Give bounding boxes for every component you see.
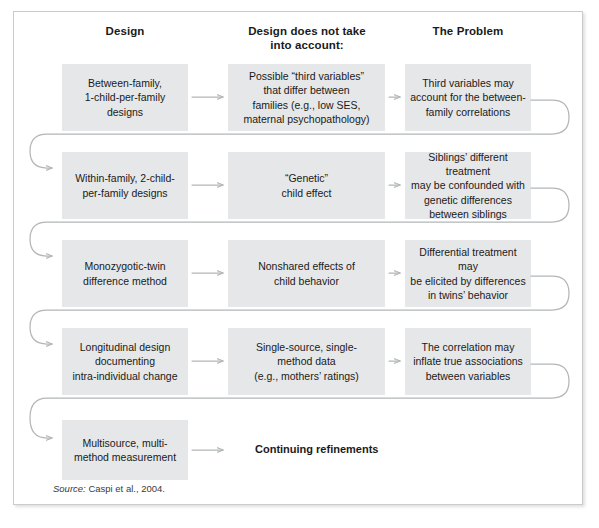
node-design-row-5-label: Multisource, multi- method measurement xyxy=(74,436,176,464)
column-header-design: Design xyxy=(62,24,188,38)
figure-screenshot: Design Design does not take into account… xyxy=(0,0,599,528)
node-design-row-3[interactable]: Monozygotic-twin difference method xyxy=(62,240,188,307)
node-design-row-4[interactable]: Longitudinal design documenting intra-in… xyxy=(62,328,188,395)
node-not-accounted-row-1[interactable]: Possible “third variables” that differ b… xyxy=(228,64,385,131)
node-not-accounted-row-1-label: Possible “third variables” that differ b… xyxy=(243,69,369,126)
node-problem-row-1-label: Third variables may account for the betw… xyxy=(410,76,526,119)
node-not-accounted-row-3[interactable]: Nonshared effects of child behavior xyxy=(228,240,385,307)
node-design-row-2[interactable]: Within-family, 2-child- per-family desig… xyxy=(62,152,188,219)
node-design-row-2-label: Within-family, 2-child- per-family desig… xyxy=(75,171,175,199)
source-note: Source: Caspi et al., 2004. xyxy=(53,483,165,494)
column-header-not-accounted-label: Design does not take into account: xyxy=(248,25,366,51)
column-header-problem-label: The Problem xyxy=(433,25,504,37)
column-header-design-label: Design xyxy=(106,25,145,37)
node-problem-row-2[interactable]: Siblings’ different treatment may be con… xyxy=(405,152,531,219)
node-design-row-5[interactable]: Multisource, multi- method measurement xyxy=(62,420,188,480)
column-header-problem: The Problem xyxy=(405,24,531,38)
node-problem-row-1[interactable]: Third variables may account for the betw… xyxy=(405,64,531,131)
node-not-accounted-row-3-label: Nonshared effects of child behavior xyxy=(258,259,355,287)
node-design-row-3-label: Monozygotic-twin difference method xyxy=(83,259,167,287)
node-design-row-4-label: Longitudinal design documenting intra-in… xyxy=(72,340,177,383)
node-problem-row-3[interactable]: Differential treatment may be elicited b… xyxy=(405,240,531,307)
column-header-not-accounted: Design does not take into account: xyxy=(222,24,392,52)
node-not-accounted-row-4[interactable]: Single-source, single- method data (e.g.… xyxy=(228,328,385,395)
node-design-row-1-label: Between-family, 1-child-per-family desig… xyxy=(85,76,166,119)
node-continuing-refinements: Continuing refinements xyxy=(255,443,378,455)
source-prefix: Source: xyxy=(53,483,86,494)
node-problem-row-2-label: Siblings’ different treatment may be con… xyxy=(409,150,527,221)
node-problem-row-3-label: Differential treatment may be elicited b… xyxy=(409,245,527,302)
source-text: Caspi et al., 2004. xyxy=(88,483,165,494)
node-not-accounted-row-2[interactable]: “Genetic” child effect xyxy=(228,152,385,219)
node-not-accounted-row-2-label: “Genetic” child effect xyxy=(281,171,331,199)
node-problem-row-4[interactable]: The correlation may inflate true associa… xyxy=(405,328,531,395)
node-problem-row-4-label: The correlation may inflate true associa… xyxy=(413,340,523,383)
node-design-row-1[interactable]: Between-family, 1-child-per-family desig… xyxy=(62,64,188,131)
node-continuing-refinements-label: Continuing refinements xyxy=(255,443,378,455)
node-not-accounted-row-4-label: Single-source, single- method data (e.g.… xyxy=(254,340,359,383)
